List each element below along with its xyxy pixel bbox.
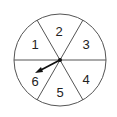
section-label-4: 4 <box>82 72 89 87</box>
spinner-graphic: 1 2 3 4 5 6 <box>0 0 117 117</box>
section-label-1: 1 <box>31 37 38 52</box>
section-label-5: 5 <box>56 85 63 100</box>
section-label-6: 6 <box>31 74 38 89</box>
section-label-3: 3 <box>82 37 89 52</box>
spinner-diagram: 1 2 3 4 5 6 <box>0 0 117 117</box>
section-label-2: 2 <box>55 24 62 39</box>
